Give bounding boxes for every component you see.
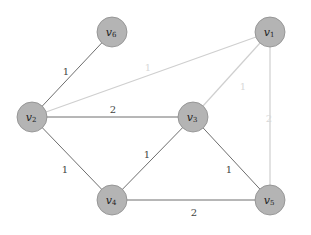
node-v3: v3: [178, 102, 208, 132]
edge-weight-v2-v4: 1: [62, 164, 68, 175]
edge-v2-v4: [32, 117, 112, 200]
edge-weight-v4-v5: 2: [191, 207, 197, 218]
edge-weight-v3-v1: 1: [240, 81, 246, 92]
edge-weight-v2-v3: 2: [110, 104, 116, 115]
node-v6: v6: [97, 17, 127, 47]
edge-weight-v4-v3: 1: [144, 149, 150, 160]
edge-weight-v1-v5: 2: [266, 113, 272, 124]
edge-weights-layer: 112121112: [62, 62, 272, 218]
nodes-layer: v1v2v3v4v5v6: [17, 17, 285, 215]
edges-layer: [32, 32, 270, 200]
edge-weight-v3-v5: 1: [226, 164, 232, 175]
edge-v6-v2: [32, 32, 112, 117]
edge-v3-v5: [193, 117, 270, 200]
node-v1: v1: [255, 17, 285, 47]
weighted-graph-diagram: 112121112 v1v2v3v4v5v6: [0, 0, 311, 235]
edge-v3-v1: [193, 32, 270, 117]
edge-v4-v3: [112, 117, 193, 200]
node-v5: v5: [255, 185, 285, 215]
edge-weight-v6-v2: 1: [63, 66, 69, 77]
edge-weight-v2-v1: 1: [145, 62, 151, 73]
node-v4: v4: [97, 185, 127, 215]
node-v2: v2: [17, 102, 47, 132]
